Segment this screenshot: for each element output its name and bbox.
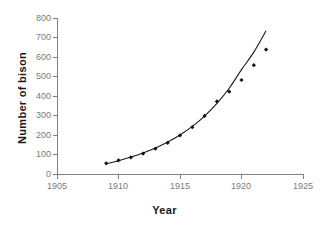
y-axis-tick: [53, 57, 57, 58]
x-tick-label: 1905: [37, 181, 77, 191]
x-tick-label: 1915: [160, 181, 200, 191]
x-tick-label: 1910: [98, 181, 138, 191]
y-axis-tick: [53, 37, 57, 38]
x-axis-tick: [303, 175, 304, 179]
x-axis-tick: [241, 175, 242, 179]
x-tick-label: 1925: [283, 181, 323, 191]
plot-area: [57, 18, 303, 174]
y-tick-label: 100: [7, 150, 51, 159]
x-axis-tick: [57, 175, 58, 179]
x-axis-tick: [118, 175, 119, 179]
x-axis-title: Year: [0, 204, 329, 216]
y-tick-label: 600: [7, 53, 51, 62]
y-axis-title: Number of bison: [16, 28, 28, 168]
x-tick-label: 1920: [221, 181, 261, 191]
y-axis-tick: [53, 135, 57, 136]
y-tick-label: 800: [7, 14, 51, 23]
y-axis-tick: [53, 76, 57, 77]
y-tick-label: 0: [7, 170, 51, 179]
y-tick-label: 700: [7, 33, 51, 42]
y-tick-label: 400: [7, 92, 51, 101]
y-axis-tick: [53, 154, 57, 155]
chart-container: 800 700 600 500 400 300 200 100 0 1905 1…: [0, 0, 329, 228]
y-tick-label: 500: [7, 72, 51, 81]
y-tick-label: 300: [7, 111, 51, 120]
x-axis-tick: [180, 175, 181, 179]
y-axis-tick: [53, 18, 57, 19]
y-axis-tick: [53, 96, 57, 97]
y-tick-label: 200: [7, 131, 51, 140]
y-axis-line: [57, 18, 58, 175]
y-axis-tick: [53, 115, 57, 116]
